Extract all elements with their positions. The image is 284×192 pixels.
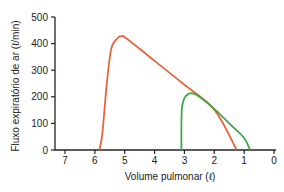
x-tick-label: 4: [152, 155, 158, 166]
x-tick-label: 3: [182, 155, 188, 166]
flow-volume-chart: 0100200300400500 76543210 Fluxo expirató…: [0, 0, 284, 192]
green-curve: [181, 93, 250, 150]
x-tick-label: 1: [241, 155, 247, 166]
x-axis: 76543210: [55, 150, 277, 166]
y-tick-label: 300: [31, 65, 48, 76]
y-tick-label: 200: [31, 91, 48, 102]
x-tick-label: 2: [212, 155, 218, 166]
y-tick-label: 0: [42, 145, 48, 156]
x-tick-label: 5: [122, 155, 128, 166]
x-tick-label: 7: [62, 155, 68, 166]
y-tick-label: 100: [31, 118, 48, 129]
orange-curve: [99, 36, 236, 150]
y-tick-label: 500: [31, 12, 48, 23]
x-tick-label: 0: [271, 155, 277, 166]
series-group: [99, 36, 250, 150]
x-tick-label: 6: [92, 155, 98, 166]
x-axis-title: Volume pulmonar (ℓ): [125, 171, 216, 182]
y-tick-label: 400: [31, 38, 48, 49]
y-axis-title: Fluxo expiratório de ar (ℓ/min): [10, 20, 21, 151]
y-axis: 0100200300400500: [31, 12, 55, 156]
